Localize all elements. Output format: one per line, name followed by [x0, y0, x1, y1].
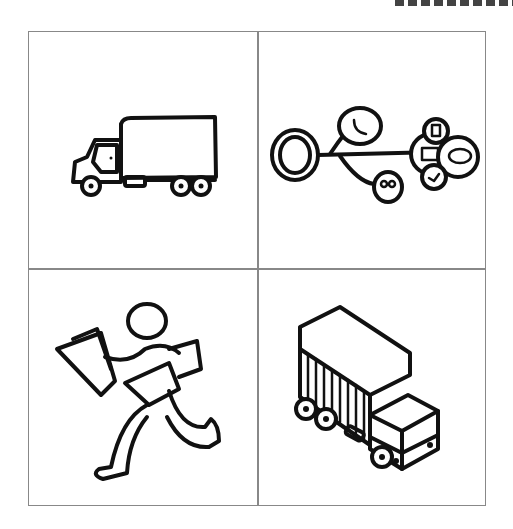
voicemail-node [374, 172, 402, 202]
communication-network-icon [258, 32, 487, 268]
panel-bottom-left [29, 269, 257, 507]
cropped-header-text [395, 0, 513, 6]
box-truck-side-view-icon [29, 32, 257, 268]
running-courier-icon [29, 269, 257, 507]
panel-bottom-right [258, 269, 487, 507]
icon-grid [28, 31, 486, 506]
mobile-node [424, 119, 448, 143]
phone-node [339, 108, 381, 144]
twitter-node [422, 165, 446, 189]
container-truck-isometric-icon [258, 269, 487, 507]
panel-top-left [29, 32, 257, 268]
panel-top-right [258, 32, 487, 268]
